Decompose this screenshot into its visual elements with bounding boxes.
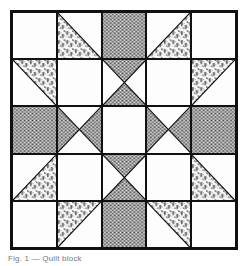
patch-r4c2 <box>57 154 102 201</box>
patch-r1c4 <box>146 12 191 59</box>
patch-r4c5 <box>191 154 236 201</box>
patch-r4c1 <box>12 154 57 201</box>
diagram-page: Fig. 1 — Quilt block <box>0 0 249 266</box>
figure-caption-clipped: Fig. 1 — Quilt block <box>8 256 158 266</box>
patch-r2c1 <box>12 59 57 106</box>
patch-r3c2 <box>57 106 102 153</box>
patch-r2c4 <box>146 59 191 106</box>
patch-r2c5 <box>191 59 236 106</box>
patch-r5c4 <box>146 201 191 248</box>
patch-r1c2 <box>57 12 102 59</box>
patch-r5c5 <box>191 201 236 248</box>
patch-r2c3 <box>102 59 147 106</box>
patch-r5c1 <box>12 201 57 248</box>
patch-r3c1 <box>12 106 57 153</box>
patch-r4c4 <box>146 154 191 201</box>
figure-caption-text: Fig. 1 — Quilt block <box>8 256 82 263</box>
patch-r1c3 <box>102 12 147 59</box>
patch-r2c2 <box>57 59 102 106</box>
patch-r3c4 <box>146 106 191 153</box>
patch-r4c3 <box>102 154 147 201</box>
patch-r1c1 <box>12 12 57 59</box>
patch-r5c2 <box>57 201 102 248</box>
patch-r3c3 <box>102 106 147 153</box>
quilt-block <box>10 10 238 250</box>
patch-r5c3 <box>102 201 147 248</box>
patch-r3c5 <box>191 106 236 153</box>
patch-r1c5 <box>191 12 236 59</box>
